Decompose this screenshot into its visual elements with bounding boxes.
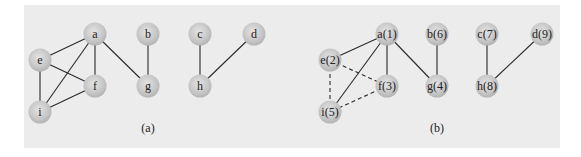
graph-figure: abcdefghi (a) a(1)b(6)c(7)d(9)e(2)f(3)g(… [0,0,581,157]
graph-figure-svg: abcdefghi (a) a(1)b(6)c(7)d(9)e(2)f(3)g(… [0,0,581,157]
node-a: a [84,23,107,46]
node-label: d(9) [532,27,552,41]
node-b: b [137,23,160,46]
node-d: d [243,23,266,46]
node-label: i(5) [321,105,338,119]
node-label: a(1) [377,27,396,41]
node-h: h(8) [476,75,499,98]
panel-b-caption: (b) [430,121,444,135]
node-f: f(3) [376,75,399,98]
node-label: a [92,27,98,41]
node-f: f [84,75,107,98]
node-label: b [145,27,151,41]
node-e: e(2) [319,49,342,72]
node-label: h(8) [477,79,497,93]
node-b: b(6) [426,23,449,46]
node-e: e [29,49,52,72]
node-i: i [29,101,52,124]
node-label: h [197,79,203,93]
panel-a-caption: (a) [141,121,154,135]
node-label: g [145,79,151,93]
node-label: g(4) [427,79,447,93]
node-d: d(9) [531,23,554,46]
node-c: c(7) [476,23,499,46]
node-label: e(2) [320,53,339,67]
node-c: c [189,23,212,46]
node-label: f(3) [378,79,396,93]
node-g: g [137,75,160,98]
node-g: g(4) [426,75,449,98]
node-label: d [251,27,257,41]
node-label: b(6) [427,27,447,41]
node-a: a(1) [376,23,399,46]
node-label: e [37,53,42,67]
node-i: i(5) [319,101,342,124]
node-label: c [197,27,202,41]
node-h: h [189,75,212,98]
node-label: c(7) [477,27,496,41]
node-label: f [93,79,97,93]
